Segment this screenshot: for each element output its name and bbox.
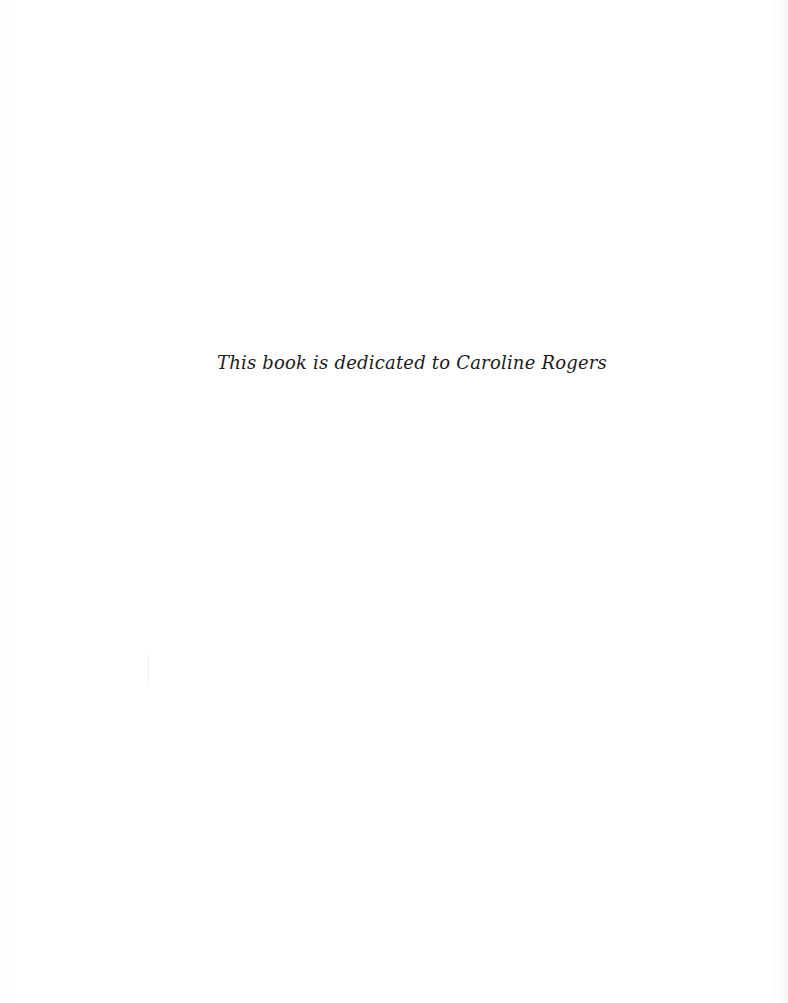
book-page: This book is dedicated to Caroline Roger… bbox=[0, 0, 788, 1003]
dedication-text: This book is dedicated to Caroline Roger… bbox=[0, 351, 788, 375]
scan-artifact bbox=[148, 655, 149, 685]
